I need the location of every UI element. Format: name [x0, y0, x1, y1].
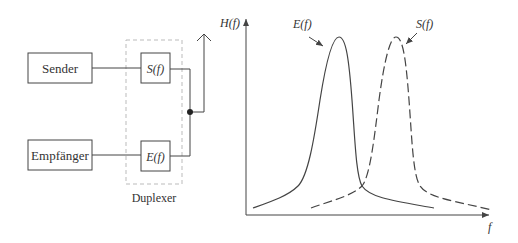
sender-label: Sender: [42, 61, 79, 76]
receive-filter-block: E(f): [141, 141, 170, 171]
transmit-filter-block: S(f): [141, 53, 170, 83]
signal-wires: [92, 34, 204, 156]
plot-axes: [246, 19, 489, 215]
receive-curve-label: E(f): [292, 17, 312, 31]
duplexer-label: Duplexer: [132, 191, 177, 205]
transmit-curve-pointer-icon: [406, 33, 417, 44]
x-axis-label: f: [488, 220, 493, 234]
receiver-label: Empfänger: [31, 148, 89, 163]
transmit-filter-label: S(f): [147, 62, 164, 76]
duplexer-diagram: Sender Empfänger S(f) E(f) Duplexer H(f)…: [0, 0, 518, 243]
transmit-filter-curve: [311, 37, 492, 210]
receive-filter-label: E(f): [145, 150, 165, 164]
receive-filter-curve: [253, 37, 434, 208]
receiver-block: Empfänger: [28, 140, 92, 170]
sender-block: Sender: [28, 53, 92, 83]
junction-dot: [187, 109, 193, 115]
transmit-curve-label: S(f): [416, 17, 433, 31]
y-axis-label: H(f): [219, 16, 240, 30]
receive-curve-pointer-icon: [309, 37, 323, 46]
